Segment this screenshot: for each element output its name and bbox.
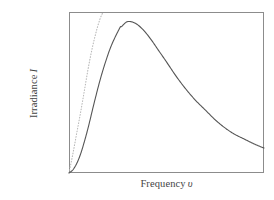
x-axis-label-symbol: υ	[186, 178, 193, 189]
blackbody-radiation-figure: IrradianceI Frequencyυ	[0, 0, 274, 200]
y-axis-label: IrradianceI	[28, 44, 39, 144]
y-axis-label-text: Irradiance	[28, 75, 39, 119]
planck-solid-curve	[69, 21, 264, 173]
x-axis-label-text: Frequency	[140, 178, 185, 189]
y-axis-label-symbol: I	[28, 69, 39, 75]
x-axis-label: Frequencyυ	[69, 178, 264, 189]
curve-canvas	[69, 12, 264, 173]
rayleigh-jeans-dotted-curve	[69, 12, 103, 173]
